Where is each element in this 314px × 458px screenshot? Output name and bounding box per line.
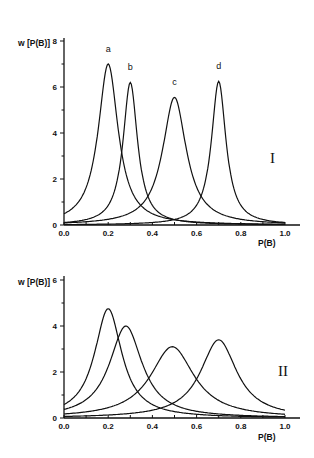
figure: w [P(B)] P(B) I 0.00.20.40.60.81.002468 … [0,0,314,458]
curve-b [64,82,285,224]
x-tick-label: 0.6 [191,422,203,431]
curve-c [64,97,285,222]
x-tick-label: 0.2 [103,422,115,431]
curve-a [64,64,285,224]
panel-I: w [P(B)] P(B) I 0.00.20.40.60.81.002468 … [17,37,300,248]
y-tick-label: 4 [53,129,58,138]
curve-label-d: d [216,61,221,71]
panel-label: I [270,150,275,166]
y-axis-title: w [P(B)] [17,38,50,48]
x-tick-label: 0.4 [147,229,159,238]
curve-a [64,309,285,417]
axes: 0.00.20.40.60.81.002468 [53,37,300,238]
panel-label: II [278,363,288,379]
axes: 0.00.20.40.60.81.00246 [53,276,300,431]
x-tick-label: 0.0 [58,422,70,431]
y-tick-label: 8 [53,37,58,46]
x-axis-title: P(B) [258,432,276,442]
x-tick-label: 0.4 [147,422,159,431]
curve-label-b: b [128,62,133,72]
x-tick-label: 0.6 [191,229,203,238]
curves [64,64,285,225]
y-tick-label: 6 [53,276,58,285]
x-tick-label: 0.8 [235,229,247,238]
x-tick-label: 0.2 [103,229,115,238]
curves [64,309,285,417]
y-tick-label: 6 [53,83,58,92]
y-tick-label: 4 [53,322,58,331]
curve-label-a: a [106,44,111,54]
x-tick-label: 0.0 [58,229,70,238]
curve-label-c: c [172,77,177,87]
y-tick-label: 0 [53,221,58,230]
y-tick-label: 2 [53,368,58,377]
panel-II: w [P(B)] P(B) II 0.00.20.40.60.81.00246 [17,276,300,442]
y-tick-label: 0 [53,414,58,423]
x-axis-title: P(B) [258,238,276,248]
curve-labels: abcd [106,44,222,87]
y-tick-label: 2 [53,175,58,184]
y-axis-title: w [P(B)] [17,277,50,287]
curve-d [64,81,285,224]
x-tick-label: 1.0 [279,229,291,238]
x-tick-label: 1.0 [279,422,291,431]
x-tick-label: 0.8 [235,422,247,431]
